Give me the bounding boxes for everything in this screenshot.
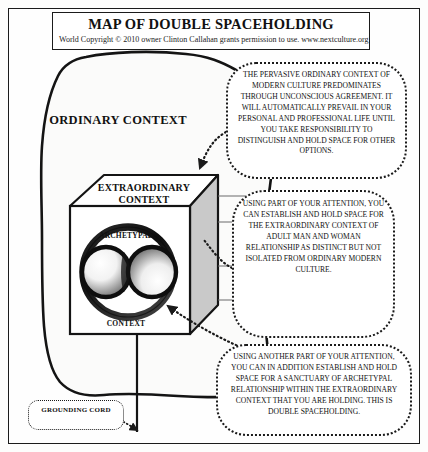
callout-ordinary-context: THE PERVASIVE ORDINARY CONTEXT OF MODERN… [226,62,407,179]
map-page: MAP OF DOUBLE SPACEHOLDING World Copyrig… [0,0,428,452]
title-block: MAP OF DOUBLE SPACEHOLDING World Copyrig… [52,12,370,50]
page-title: MAP OF DOUBLE SPACEHOLDING [59,17,363,33]
infinity-right-lobe [128,247,176,297]
grounding-cord-callout [28,400,124,430]
copyright-notice: World Copyright © 2010 owner Clinton Cal… [59,35,363,45]
callout-double-spaceholding: USING ANOTHER PART OF YOUR ATTENTION, YO… [216,344,412,436]
archetypal-context-emblem [82,227,176,317]
callout-extraordinary-context: USING PART OF YOUR ATTENTION, YOU CAN ES… [232,190,395,338]
